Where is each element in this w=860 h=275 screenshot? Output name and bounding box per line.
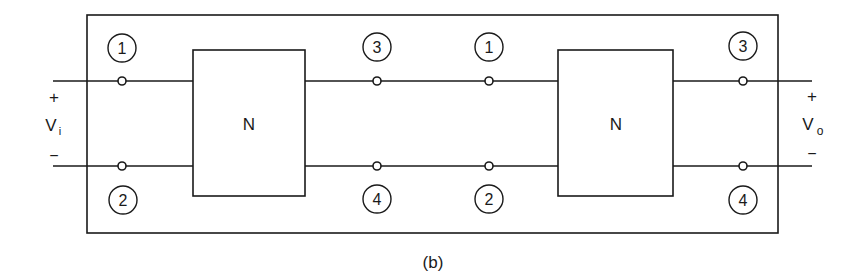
cascade-diagram: N N 1 2 3 4 1 2 3 4 + V i − <box>0 0 860 275</box>
terminal-icon <box>373 77 381 85</box>
terminal-icon <box>485 77 493 85</box>
terminal-icon <box>739 162 747 170</box>
port-label: 3 <box>739 38 748 55</box>
input-minus-sign: − <box>49 147 58 164</box>
output-voltage-subscript: o <box>817 124 824 138</box>
input-plus-sign: + <box>49 88 59 107</box>
terminal-icon <box>373 162 381 170</box>
port-label: 1 <box>485 39 494 56</box>
terminal-icon <box>118 162 126 170</box>
port-label: 4 <box>373 191 382 208</box>
port-label: 4 <box>739 192 748 209</box>
wires <box>53 81 812 166</box>
output-plus-sign: + <box>807 87 817 106</box>
figure-caption: (b) <box>423 253 444 272</box>
port-label: 2 <box>119 192 128 209</box>
network-label-1: N <box>243 115 255 134</box>
terminal-icon <box>739 77 747 85</box>
port-label: 3 <box>373 39 382 56</box>
output-voltage: + V o − <box>802 87 823 162</box>
terminal-icon <box>485 162 493 170</box>
input-voltage: + V i − <box>45 88 61 164</box>
outer-enclosure <box>87 15 778 233</box>
port-markers: 1 2 3 4 1 2 3 4 <box>108 32 757 214</box>
port-label: 2 <box>485 191 494 208</box>
output-minus-sign: − <box>807 145 816 162</box>
input-voltage-symbol: V <box>45 116 57 135</box>
terminal-icon <box>118 77 126 85</box>
input-voltage-subscript: i <box>59 125 61 137</box>
terminals <box>118 77 747 170</box>
network-label-2: N <box>610 115 622 134</box>
output-voltage-symbol: V <box>802 115 814 134</box>
port-label: 1 <box>118 40 127 57</box>
